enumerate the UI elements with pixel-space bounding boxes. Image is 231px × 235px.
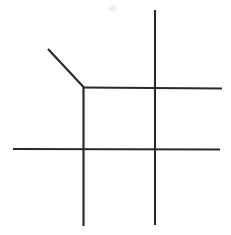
line-figure — [0, 0, 231, 235]
upper-horizontal-line — [83, 88, 222, 89]
scan-speck-artifact — [109, 6, 117, 12]
canvas-background — [0, 0, 231, 235]
lower-horizontal-line — [13, 149, 220, 150]
drawing-canvas — [0, 0, 231, 235]
